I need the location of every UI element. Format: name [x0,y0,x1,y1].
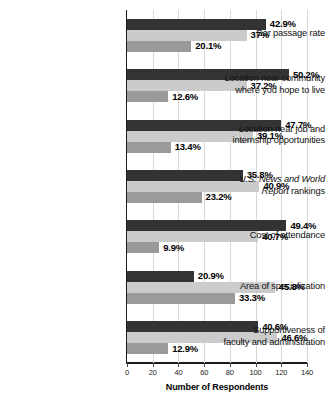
bar-series-3 [127,142,171,153]
category-label-line: Supportiveness of [209,325,325,337]
x-tick-mark [127,363,128,367]
bar-value-label: 12.9% [172,343,198,354]
bar-series-3 [127,91,168,102]
category-label: Area of specialization [209,281,331,293]
category-label-line: Location near community [209,73,325,85]
bar-series-3 [127,293,235,304]
bar-series-3 [127,41,191,52]
category-label: Bar passage rate [209,28,331,40]
category-label-roman-part: rankings [289,186,325,196]
x-tick-label: 140 [292,368,322,377]
category-label-line: Cost of attendance [209,230,325,242]
bar-value-label: 13.4% [175,141,201,152]
horizontal-bar-chart: 42.9%37%20.1%50.2%37.2%12.6%47.7%39.1%13… [0,0,331,404]
category-label-italic-part: Report [262,186,289,196]
category-label-line: Bar passage rate [209,28,325,40]
category-label: Location near job andinternship opportun… [209,124,331,147]
x-tick-mark [204,363,205,367]
category-label-line: internship opportunities [209,135,325,147]
x-tick-mark [230,363,231,367]
category-label-line: Location near job and [209,124,325,136]
bar-series-3 [127,192,202,203]
bar-series-3 [127,242,159,253]
bar-series-3 [127,343,168,354]
x-tick-mark [281,363,282,367]
category-label-line: faculty and administration [209,337,325,349]
category-label: Supportiveness offaculty and administrat… [209,325,331,348]
bar-value-label: 20.1% [195,40,221,51]
bar-series-1 [127,271,194,282]
category-label-line: Area of specialization [209,281,325,293]
x-tick-mark [178,363,179,367]
category-label-line: where you hope to live [209,85,325,97]
category-label: U.S. News and WorldReport rankings [209,174,331,197]
bar-value-label: 9.9% [163,242,184,253]
category-label: Cost of attendance [209,230,331,242]
bar-value-label: 12.6% [172,91,198,102]
category-label: Location near communitywhere you hope to… [209,73,331,96]
category-label-line: Report rankings [209,186,325,198]
x-tick-mark [307,363,308,367]
x-tick-mark [153,363,154,367]
category-label-line: U.S. News and World [209,174,325,186]
x-axis-title: Number of Respondents [127,382,307,392]
x-tick-mark [256,363,257,367]
bar-value-label: 33.3% [239,292,265,303]
